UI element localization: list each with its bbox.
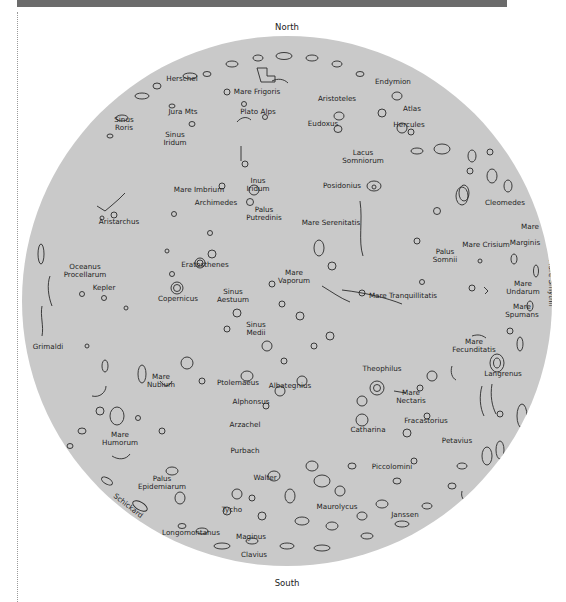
feature-label-janssen: Janssen	[391, 511, 419, 519]
feature-label-palus-epidemiarum: Palus Epidemiarum	[138, 475, 186, 491]
feature-label-tycho: Tycho	[222, 506, 242, 514]
feature-label-eratosthenes: Eratosthenes	[181, 261, 228, 269]
feature-label-jura-mts: Jura Mts	[168, 108, 197, 116]
feature-label-mare-tranquillitatis: Mare Tranquillitatis	[369, 292, 437, 300]
feature-label-mare-undarum: Mare Undarum	[506, 280, 539, 296]
feature-label-herschel: Herschel	[166, 75, 197, 83]
feature-label-eudoxus: Eudoxus	[308, 120, 338, 128]
feature-label-maginus: Maginus	[236, 533, 266, 541]
feature-label-marginis: Marginis	[510, 239, 540, 247]
south-label: South	[275, 578, 300, 588]
feature-label-mare-humorum: Mare Humorum	[102, 431, 138, 447]
feature-label-palus-putredinis: Palus Putredinis	[246, 206, 282, 222]
left-margin-rule	[17, 12, 18, 602]
feature-label-posidonius: Posidonius	[323, 182, 361, 190]
feature-label-oceanus-procellarum: Oceanus Procellarum	[64, 263, 107, 279]
feature-label-piccolomini: Piccolomini	[372, 463, 412, 471]
north-label: North	[275, 22, 299, 32]
feature-label-arzachel: Arzachel	[230, 421, 261, 429]
feature-label-lacus-somniorum: Lacus Somniorum	[342, 149, 383, 165]
feature-label-sinus-medii: Sinus Medii	[246, 321, 265, 337]
feature-label-sinus-roris: Sinus Roris	[114, 116, 133, 132]
feature-label-mare-fecunditatis: Mare Fecunditatis	[452, 338, 496, 354]
feature-label-atlas: Atlas	[403, 105, 421, 113]
feature-label-grimaldi: Grimaldi	[33, 343, 63, 351]
header-bar	[17, 0, 507, 7]
crater-outlines	[22, 36, 552, 566]
feature-label-theophilus: Theophilus	[362, 365, 401, 373]
moon-disk: HerschelMare FrigorisAristotelesEndymion…	[22, 36, 552, 566]
feature-label-aristoteles: Aristoteles	[318, 95, 356, 103]
feature-label-mare-spumans: Mare Spumans	[505, 303, 538, 319]
feature-label-mare-nubium: Mare Nubium	[147, 373, 175, 389]
feature-label-purbach: Purbach	[230, 447, 259, 455]
feature-label-albategnius: Albategnius	[269, 382, 312, 390]
feature-label-mare-imbrium: Mare Imbrium	[174, 186, 224, 194]
feature-label-walter: Walter	[253, 474, 276, 482]
feature-label-clavius: Clavius	[241, 551, 267, 559]
feature-label-cleomedes: Cleomedes	[485, 199, 525, 207]
feature-label-hercules: Hercules	[393, 121, 424, 129]
feature-label-palus-somnii: Palus Somnii	[433, 248, 458, 264]
feature-label-sinus-iridum: Sinus Iridum	[163, 131, 186, 147]
feature-label-fracastorius: Fracastorius	[404, 417, 448, 425]
feature-label-langrenus: Langrenus	[484, 370, 522, 378]
feature-label-mare-crisium: Mare Crisium	[462, 241, 509, 249]
feature-label-aristarchus: Aristarchus	[99, 218, 139, 226]
feature-label-catharina: Catharina	[350, 426, 385, 434]
feature-label-maurolycus: Maurolycus	[317, 503, 358, 511]
feature-label-ptolemaeus: Ptolemaeus	[217, 379, 259, 387]
feature-label-alphonsus: Alphonsus	[232, 398, 269, 406]
feature-label-sinus-aestuum: Sinus Aestuum	[217, 288, 249, 304]
feature-label-copernicus: Copernicus	[158, 295, 198, 303]
feature-label-kepler: Kepler	[93, 284, 116, 292]
feature-label-endymion: Endymion	[375, 78, 411, 86]
feature-label-inus-iridum: Inus Iridum	[246, 177, 269, 193]
feature-label-archimedes: Archimedes	[195, 199, 237, 207]
feature-label-mare: Mare	[521, 223, 539, 231]
feature-label-mare-vaporum: Mare Vaporum	[278, 269, 310, 285]
feature-label-mare-nectaris: Mare Nectaris	[396, 389, 426, 405]
feature-label-longomontanus: Longomontanus	[162, 529, 220, 537]
feature-label-plato-alps: Plato Alps	[240, 108, 275, 116]
feature-label-mare-frigoris: Mare Frigoris	[234, 88, 280, 96]
feature-label-mare-serenitatis: Mare Serenitatis	[302, 219, 361, 227]
feature-label-petavius: Petavius	[442, 437, 472, 445]
feature-label-mare-smythii: Mare Smythii	[547, 259, 552, 306]
